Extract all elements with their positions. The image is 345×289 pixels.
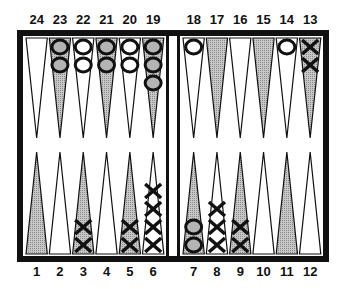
label-point-9: 9 (228, 264, 252, 279)
o-checker-point-20[interactable] (122, 40, 138, 54)
label-point-11: 11 (275, 264, 299, 279)
label-point-21: 21 (95, 12, 119, 27)
label-point-1: 1 (25, 264, 49, 279)
label-point-6: 6 (141, 264, 165, 279)
label-point-23: 23 (48, 12, 72, 27)
label-point-3: 3 (71, 264, 95, 279)
o-checker-point-19[interactable] (145, 76, 161, 90)
label-point-18: 18 (182, 12, 206, 27)
o-checker-point-22[interactable] (75, 40, 91, 54)
label-point-15: 15 (252, 12, 276, 27)
o-checker-point-22[interactable] (75, 58, 91, 72)
label-point-8: 8 (205, 264, 229, 279)
o-checker-point-19[interactable] (145, 40, 161, 54)
backgammon-board (0, 0, 345, 289)
o-checker-point-21[interactable] (99, 40, 115, 54)
label-point-7: 7 (182, 264, 206, 279)
label-point-4: 4 (95, 264, 119, 279)
label-point-12: 12 (298, 264, 322, 279)
o-checker-point-19[interactable] (145, 58, 161, 72)
o-checker-point-18[interactable] (186, 40, 202, 54)
label-point-14: 14 (275, 12, 299, 27)
o-checker-point-7[interactable] (186, 220, 202, 234)
label-point-10: 10 (252, 264, 276, 279)
label-point-2: 2 (48, 264, 72, 279)
o-checker-point-20[interactable] (122, 58, 138, 72)
o-checker-point-14[interactable] (279, 40, 295, 54)
label-point-19: 19 (141, 12, 165, 27)
o-checker-point-21[interactable] (99, 58, 115, 72)
o-checker-point-23[interactable] (52, 58, 68, 72)
label-point-24: 24 (25, 12, 49, 27)
label-point-17: 17 (205, 12, 229, 27)
o-checker-point-23[interactable] (52, 40, 68, 54)
label-point-16: 16 (228, 12, 252, 27)
label-point-20: 20 (118, 12, 142, 27)
label-point-22: 22 (71, 12, 95, 27)
label-point-5: 5 (118, 264, 142, 279)
o-checker-point-7[interactable] (186, 238, 202, 252)
label-point-13: 13 (298, 12, 322, 27)
